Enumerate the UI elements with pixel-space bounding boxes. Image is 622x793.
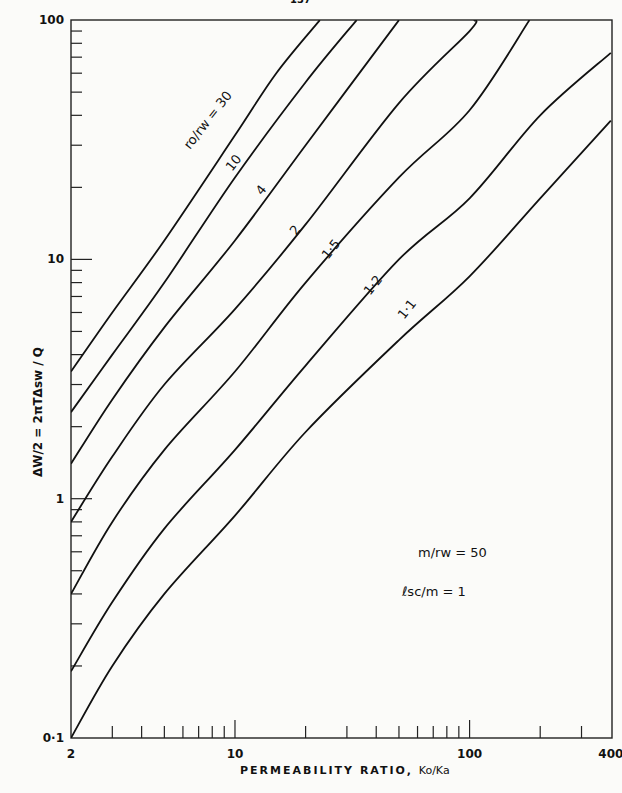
svg-text:1: 1 (56, 492, 64, 506)
param-lsc-m: ℓsc/m = 1 (402, 584, 466, 599)
param-m-rw: m/rw = 50 (418, 545, 487, 560)
x-axis-label: PERMEABILITY RATIO, Ko/Ka (240, 764, 450, 777)
svg-text:ro/rw = 30: ro/rw = 30 (181, 88, 235, 152)
svg-text:100: 100 (39, 13, 64, 27)
curve-6 (71, 121, 611, 738)
svg-text:0·1: 0·1 (43, 731, 64, 745)
svg-text:100: 100 (457, 747, 482, 761)
svg-text:10: 10 (223, 152, 245, 174)
chart-plot: ro/rw = 3010421·51·21·1 2101004000·11101… (0, 0, 622, 793)
svg-text:2: 2 (287, 222, 304, 238)
svg-text:400: 400 (598, 747, 622, 761)
curve-0 (71, 20, 320, 371)
plot-frame (71, 20, 612, 738)
svg-text:2: 2 (67, 747, 75, 761)
curve-4 (71, 20, 529, 594)
svg-text:1·5: 1·5 (319, 236, 344, 262)
svg-text:10: 10 (47, 252, 64, 266)
x-axis-label-main: PERMEABILITY RATIO, (240, 764, 413, 777)
curve-3 (71, 20, 477, 522)
axis-ticks (71, 31, 582, 738)
svg-text:1·2: 1·2 (361, 272, 386, 298)
curves (71, 20, 611, 738)
curve-1 (71, 20, 357, 412)
curve-5 (71, 53, 611, 671)
curve-2 (71, 20, 399, 464)
svg-text:1·1: 1·1 (395, 296, 420, 322)
svg-text:4: 4 (253, 182, 270, 198)
x-axis-label-ratio: Ko/Ka (419, 764, 450, 777)
svg-text:10: 10 (227, 747, 244, 761)
y-axis-label: ΔW/2 = 2πTΔsw / Q (31, 312, 45, 512)
tick-labels: 2101004000·1110100 (39, 13, 622, 761)
